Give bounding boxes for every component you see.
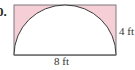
- width-label: 8 ft: [54, 55, 69, 67]
- height-label: 4 ft: [119, 25, 134, 37]
